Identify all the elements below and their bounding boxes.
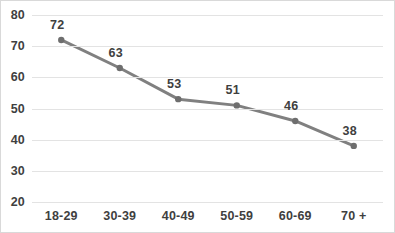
x-tick-label: 40-49	[162, 209, 195, 223]
x-tick-label: 60-69	[279, 209, 312, 223]
data-point-marker	[58, 37, 64, 43]
y-tick-label: 80	[11, 8, 25, 22]
x-axis: 18-2930-3940-4950-5960-6970 +	[32, 204, 383, 233]
x-tick-label: 18-29	[45, 209, 78, 223]
y-tick-label: 70	[11, 39, 25, 53]
data-label: 72	[50, 18, 64, 32]
data-label: 38	[343, 124, 357, 138]
gridline	[32, 77, 383, 78]
gridline	[32, 109, 383, 110]
plot-area: 726353514638	[32, 15, 383, 202]
gridline	[32, 46, 383, 47]
y-tick-label: 40	[11, 133, 25, 147]
x-tick-label: 70 +	[341, 209, 366, 223]
data-point-marker	[175, 96, 181, 102]
gridline	[32, 171, 383, 172]
gridline	[32, 15, 383, 16]
data-label: 53	[167, 77, 181, 91]
y-tick-label: 50	[11, 102, 25, 116]
y-tick-label: 20	[11, 195, 25, 209]
data-label: 46	[284, 99, 298, 113]
x-tick-label: 30-39	[103, 209, 136, 223]
data-point-marker	[117, 65, 123, 71]
data-point-marker	[351, 143, 357, 149]
x-tick-label: 50-59	[220, 209, 253, 223]
gridline	[32, 140, 383, 141]
data-label: 63	[109, 46, 123, 60]
y-tick-label: 30	[11, 164, 25, 178]
gridline	[32, 202, 383, 203]
line-chart: 80706050403020 726353514638 18-2930-3940…	[0, 0, 395, 233]
data-label: 51	[226, 83, 240, 97]
data-point-marker	[292, 118, 298, 124]
y-axis: 80706050403020	[1, 1, 32, 233]
series-polyline	[61, 40, 354, 146]
y-tick-label: 60	[11, 70, 25, 84]
